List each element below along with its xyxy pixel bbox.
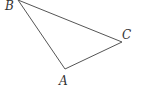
vertex-label-a: A	[58, 74, 68, 88]
vertex-label-c: C	[122, 28, 131, 42]
triangle-diagram: B C A	[0, 0, 143, 91]
vertex-label-b: B	[4, 0, 14, 13]
triangle-abc	[18, 0, 122, 69]
